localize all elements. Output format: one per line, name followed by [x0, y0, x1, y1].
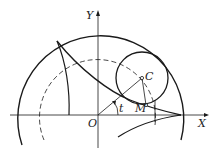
label-c: C: [145, 70, 154, 83]
center-locus-dashed-arc: [39, 60, 155, 140]
label-y: Y: [86, 9, 95, 22]
hypocycloid-left-branch: [57, 41, 69, 115]
y-axis-arrow-icon: [96, 10, 100, 16]
label-o: O: [88, 117, 97, 130]
hypocycloid-diagram: Y X O C M t: [0, 0, 215, 152]
hypocycloid-lower-branch: [118, 115, 181, 137]
label-x: X: [197, 117, 207, 130]
label-t: t: [119, 102, 124, 115]
point-c: [140, 76, 143, 79]
label-m: M: [134, 102, 147, 115]
fixed-circle-arc: [18, 36, 184, 145]
